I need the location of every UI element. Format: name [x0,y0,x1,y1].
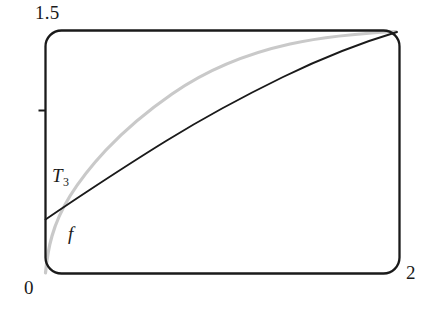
taylor-polynomial-label: T3 [52,166,69,192]
x-axis-max-label: 2 [406,263,416,282]
plot-canvas [0,0,428,312]
series-t3-curve [46,32,398,220]
taylor-approximation-figure: 1.5 0 2 T3 f [0,0,428,312]
y-axis-min-label: 0 [24,278,34,297]
y-axis-max-label: 1.5 [35,3,60,22]
series-f-curve [46,32,397,274]
taylor-label-subscript: 3 [63,175,70,189]
function-label: f [68,224,73,243]
taylor-label-base: T [52,165,63,186]
